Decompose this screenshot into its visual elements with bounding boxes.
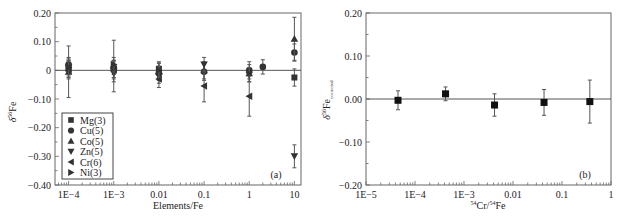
x-tick-label: 1E−4 xyxy=(58,189,80,200)
y-axis-b: 0.200.100.00−0.10−0.20 xyxy=(339,8,370,191)
chart-a: 0.200.100−0.10−0.20−0.30−0.40 1E−41E−30.… xyxy=(7,8,301,212)
x-tick-label: 1E−3 xyxy=(453,189,475,200)
x-axis-title-b-mid: Cr/ xyxy=(477,200,490,211)
x-tick-label: 0.1 xyxy=(198,189,211,200)
y-axis-title-a-tail: Fe xyxy=(7,101,18,112)
figure: 0.200.100−0.10−0.20−0.30−0.40 1E−41E−30.… xyxy=(0,0,622,223)
data-point xyxy=(395,97,402,104)
y-tick-label: −0.10 xyxy=(28,94,51,105)
x-axis-title-b-tail: Fe xyxy=(495,200,506,211)
x-tick-label: 0.01 xyxy=(504,189,522,200)
y-tick-label: 0 xyxy=(46,65,51,76)
x-tick-label: 0.1 xyxy=(556,189,569,200)
x-tick-label: 1E−3 xyxy=(103,189,125,200)
legend-marker-icon xyxy=(68,127,74,133)
chart-b: 0.200.100.00−0.10−0.20 1E−51E−41E−30.010… xyxy=(321,8,614,212)
x-tick-label: 10 xyxy=(289,189,299,200)
y-tick-label: 0.20 xyxy=(345,8,363,19)
x-tick-label: 1E−4 xyxy=(404,189,426,200)
y-tick-label: −0.40 xyxy=(28,180,51,191)
data-point xyxy=(586,98,593,105)
x-tick-label: 1 xyxy=(247,189,252,200)
y-tick-label: −0.30 xyxy=(28,151,51,162)
data-point xyxy=(442,90,449,97)
y-tick-label: −0.20 xyxy=(28,122,51,133)
data-points-b xyxy=(395,80,594,123)
legend-marker-icon xyxy=(68,117,74,123)
x-tick-label: 0.01 xyxy=(150,189,168,200)
series-cr-corrected xyxy=(395,80,594,123)
x-axis-title-a: Elements/Fe xyxy=(153,200,204,211)
data-point xyxy=(291,153,299,160)
x-tick-label: 1 xyxy=(609,189,614,200)
data-point xyxy=(291,35,299,42)
x-axis-a: 1E−41E−30.010.1110 xyxy=(58,181,300,200)
data-point xyxy=(200,62,208,69)
y-tick-label: 0.00 xyxy=(345,94,363,105)
y-axis-a: 0.200.100−0.10−0.20−0.30−0.40 xyxy=(28,8,59,191)
y-tick-label: 0.10 xyxy=(345,51,363,62)
y-tick-label: −0.10 xyxy=(339,137,362,148)
data-point xyxy=(541,99,548,106)
y-axis-title-a: δ56Fe xyxy=(7,101,18,122)
panel-label-b: (b) xyxy=(579,169,591,181)
x-axis-title-b: 54Cr/54Fe xyxy=(471,200,506,211)
panel-label-a: (a) xyxy=(270,169,281,181)
x-tick-label: 1E−5 xyxy=(355,189,377,200)
y-axis-title-b: δ56Fecorrected xyxy=(321,80,334,120)
y-axis-title-b-sub: corrected xyxy=(329,80,334,99)
legend-a: Mg(3)Cu(5)Co(5)Zn(5)Cr(6)Ni(3) xyxy=(62,113,113,179)
legend-label: Ni(3) xyxy=(80,167,102,179)
data-point xyxy=(260,64,267,71)
data-point xyxy=(291,75,297,81)
y-axis-title-b-tail: Fe xyxy=(321,98,332,109)
x-axis-b: 1E−51E−41E−30.010.11 xyxy=(355,181,613,200)
data-point xyxy=(491,102,498,109)
y-tick-label: 0.20 xyxy=(34,8,52,19)
series-cu-5 xyxy=(65,44,297,80)
series-co-5 xyxy=(65,17,298,97)
y-tick-label: 0.10 xyxy=(34,36,52,47)
